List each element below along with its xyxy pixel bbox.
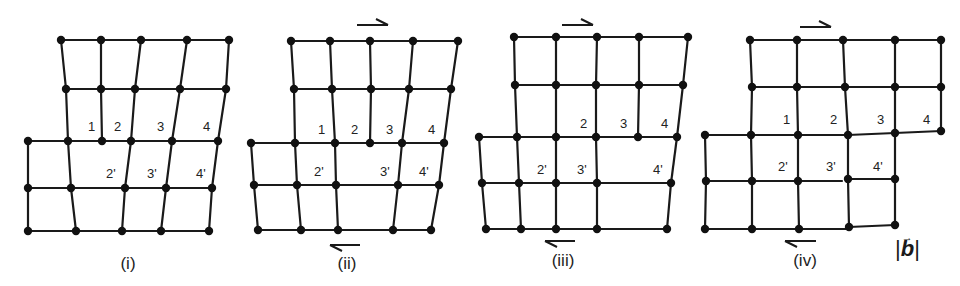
atom-node [511, 81, 519, 89]
atom-node [162, 184, 170, 192]
lattice-bond [295, 143, 297, 185]
atom-node [702, 177, 710, 185]
plane-label: 2 [351, 122, 358, 137]
atom-node [183, 36, 191, 44]
atom-node [635, 81, 643, 89]
atom-node [891, 129, 899, 137]
plane-label: 4 [661, 116, 668, 131]
atom-node [793, 36, 801, 44]
atom-node [552, 33, 560, 41]
lattice-bond [409, 41, 413, 89]
atom-node [440, 139, 448, 147]
atom-node [247, 139, 255, 147]
plane-label: 4' [419, 164, 429, 179]
lattice-bond [444, 89, 451, 143]
panel-ii: 12342'3'4'(ii) [247, 19, 462, 273]
shear-arrow-left-icon [330, 245, 360, 251]
lattice-bond [66, 89, 68, 141]
atom-node [510, 33, 518, 41]
lattice-bond [705, 135, 706, 181]
lattice-bond [482, 183, 486, 229]
atom-node [435, 181, 443, 189]
atom-node [24, 184, 32, 192]
lattice-bond [515, 85, 517, 137]
plane-label: 2 [114, 119, 121, 134]
lattice-bond [451, 41, 458, 89]
vector-arrow-icon: → [902, 231, 913, 243]
shear-arrow-left-icon [785, 241, 816, 247]
atom-node [332, 181, 340, 189]
atom-node [593, 225, 601, 233]
plane-label: 3 [620, 116, 627, 131]
atom-node [57, 36, 65, 44]
atom-node [157, 227, 165, 235]
atom-node [478, 179, 486, 187]
atom-node [405, 85, 413, 93]
lattice-bond [135, 40, 141, 89]
plane-label: 1 [783, 112, 790, 127]
atom-node [291, 139, 299, 147]
lattice-bond [291, 41, 294, 89]
burgers-vector-label: |→b| [895, 236, 920, 262]
atom-node [552, 179, 560, 187]
atom-node [891, 175, 899, 183]
lattice-bond [845, 87, 848, 135]
lattice-bond [251, 143, 254, 185]
lattice-bond [750, 40, 752, 87]
atom-node [793, 83, 801, 91]
lattice-bond [848, 179, 849, 227]
lattice-bond [370, 89, 371, 143]
plane-label: 3' [147, 166, 157, 181]
plane-label: 2' [537, 162, 547, 177]
lattice-bond [849, 225, 895, 227]
atom-node [701, 131, 709, 139]
lattice-bond [439, 143, 444, 185]
atom-node [334, 226, 342, 234]
panel-caption: (i) [120, 254, 135, 273]
atom-node [222, 85, 230, 93]
plane-label: 2' [106, 166, 116, 181]
lattice-bond [797, 87, 798, 135]
lattice-bond [61, 40, 66, 89]
lattice-bond [172, 89, 180, 141]
plane-label: 4 [923, 112, 930, 127]
plane-label: 2' [314, 164, 324, 179]
atom-node [24, 227, 32, 235]
lattice-bond [101, 89, 102, 141]
atom-node [287, 37, 295, 45]
lattice-bond [330, 41, 332, 89]
plane-label: 2 [580, 116, 587, 131]
lattice-bond [254, 185, 258, 230]
atom-node [667, 179, 675, 187]
atom-node [205, 227, 213, 235]
lattice-bond [370, 41, 371, 89]
atom-node [127, 137, 135, 145]
atom-node [592, 133, 600, 141]
lattice-bond [843, 40, 845, 87]
atom-node [67, 184, 75, 192]
lattice-bond [212, 141, 218, 188]
atom-node [293, 181, 301, 189]
atom-node [98, 137, 106, 145]
atom-node [254, 226, 262, 234]
atom-node [137, 36, 145, 44]
atom-node [552, 133, 560, 141]
atom-node [409, 37, 417, 45]
atom-node [552, 225, 560, 233]
atom-node [427, 226, 435, 234]
atom-node [290, 85, 298, 93]
lattice-bond [122, 188, 125, 231]
lattice-bond [125, 141, 131, 188]
lattice-bond [848, 133, 895, 135]
atom-node [394, 181, 402, 189]
plane-label: 3 [877, 112, 884, 127]
lattice-bond [751, 135, 752, 181]
lattice-bond [332, 89, 335, 143]
atom-node [844, 131, 852, 139]
atom-node [663, 225, 671, 233]
atom-node [97, 85, 105, 93]
lattice-bond [514, 37, 515, 85]
atom-node [366, 37, 374, 45]
panel-i: 12342'3'4'(i) [24, 36, 233, 273]
atom-node [62, 85, 70, 93]
